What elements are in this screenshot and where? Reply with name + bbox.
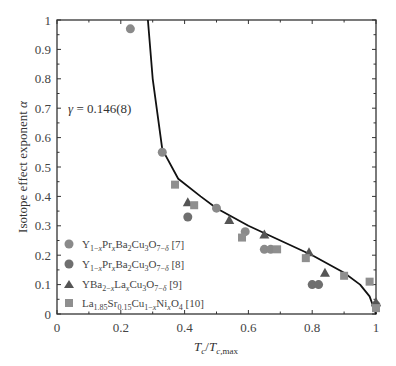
data-point-circle xyxy=(126,24,135,33)
y-tick-label: 0.9 xyxy=(35,42,51,57)
x-axis-title: Tc/Tc,max xyxy=(194,339,238,356)
chart: 00.20.40.60.8100.10.20.30.40.50.60.70.80… xyxy=(0,0,396,366)
y-tick-label: 0.8 xyxy=(35,71,51,86)
data-point-circle xyxy=(212,204,221,213)
legend-marker-circle-8 xyxy=(65,260,74,269)
y-tick-label: 1 xyxy=(45,13,52,28)
x-tick-label: 1 xyxy=(373,320,380,335)
x-tick-label: 0.8 xyxy=(304,320,320,335)
gamma-annotation: γ = 0.146(8) xyxy=(68,101,131,116)
data-point-square xyxy=(273,245,281,253)
legend-item-7: Y1−xPrxBa2Cu3O7−δ [7] xyxy=(82,238,184,253)
data-point-square xyxy=(302,254,310,262)
legend-item-9: YBa2−xLaxCu3O7−δ [9] xyxy=(82,278,182,293)
data-point-square xyxy=(366,278,374,286)
data-point-circle xyxy=(158,148,167,157)
legend-item-10: La1.85Sr0.15Cu1−xNixO4 [10] xyxy=(82,297,204,312)
legend-marker-square-10 xyxy=(65,299,73,307)
x-tick-label: 0 xyxy=(54,320,61,335)
data-point-circle xyxy=(183,212,192,221)
legend: Y1−xPrxBa2Cu3O7−δ [7] Y1−xPrxBa2Cu3O7−δ … xyxy=(64,238,204,312)
y-tick-label: 0.3 xyxy=(35,218,51,233)
y-tick-label: 0.5 xyxy=(35,160,51,175)
y-tick-label: 0 xyxy=(45,307,52,322)
y-tick-label: 0.4 xyxy=(35,189,52,204)
data-point-triangle xyxy=(320,268,330,277)
x-tick-label: 0.4 xyxy=(176,320,193,335)
data-point-square xyxy=(372,304,380,312)
y-tick-label: 0.7 xyxy=(35,101,52,116)
data-point-circle xyxy=(314,280,323,289)
y-tick-label: 0.6 xyxy=(35,130,52,145)
legend-marker-circle-7 xyxy=(65,240,74,249)
y-tick-label: 0.2 xyxy=(35,248,51,263)
x-tick-label: 0.6 xyxy=(240,320,257,335)
data-point-square xyxy=(238,234,246,242)
legend-marker-triangle-9 xyxy=(64,280,74,288)
data-point-square xyxy=(171,181,179,189)
data-point-square xyxy=(190,201,198,209)
y-axis-title: Isotope effect exponent α xyxy=(15,100,30,233)
legend-item-8: Y1−xPrxBa2Cu3O7−δ [8] xyxy=(82,258,184,273)
data-point-square xyxy=(340,272,348,280)
x-tick-label: 0.2 xyxy=(113,320,129,335)
y-tick-label: 0.1 xyxy=(35,277,51,292)
